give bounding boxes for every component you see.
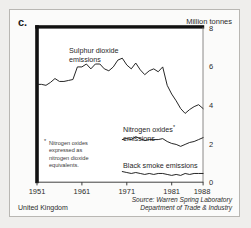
footnote-line4: equivalents. bbox=[49, 162, 79, 168]
y-tick-8: 8 bbox=[209, 24, 213, 33]
label-black-smoke: Black smoke emissions bbox=[123, 161, 198, 170]
frame-top-bar bbox=[35, 25, 204, 28]
label-sulphur-dioxide-line1: Sulphur dioxide bbox=[69, 46, 119, 55]
label-nitrogen-oxides-line2: emissions bbox=[123, 134, 155, 143]
source-credit: Source: Warren Spring Laboratory Departm… bbox=[132, 196, 232, 212]
emissions-line-chart: 8 6 4 2 0 1951 1961 1971 1981 1988 Sulph… bbox=[10, 10, 240, 217]
y-tick-2: 2 bbox=[209, 140, 213, 149]
source-line-2: Department of Trade & Industry bbox=[132, 204, 232, 212]
y-axis-ticks: 8 6 4 2 0 bbox=[209, 24, 213, 188]
y-tick-6: 6 bbox=[209, 62, 213, 71]
x-tick-1951: 1951 bbox=[29, 187, 46, 196]
y-tick-4: 4 bbox=[209, 101, 213, 110]
footnote-line2: expressed as bbox=[49, 147, 82, 153]
country-label: United Kingdom bbox=[18, 204, 68, 211]
frame-left-bar bbox=[35, 25, 39, 183]
label-sulphur-dioxide-line2: emissions bbox=[69, 55, 101, 64]
source-line-1: Source: Warren Spring Laboratory bbox=[132, 196, 232, 204]
x-axis-ticks: 1951 1961 1971 1981 1988 bbox=[29, 182, 211, 196]
footnote-line3: nitrogen dioxide bbox=[49, 155, 89, 161]
x-tick-1961: 1961 bbox=[74, 187, 91, 196]
figure-panel: c. Million tonnes 8 6 4 2 0 1951 1961 19… bbox=[9, 9, 240, 217]
label-nitrogen-oxides-line1: Nitrogen oxides* bbox=[123, 124, 176, 134]
footnote-line1: Nitrogen oxides bbox=[49, 140, 88, 146]
